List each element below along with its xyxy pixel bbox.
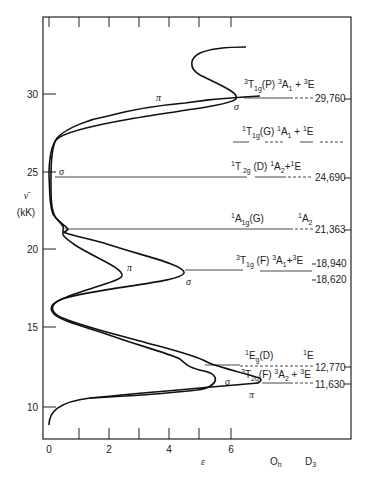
- d3-header: D3: [305, 456, 316, 468]
- label-1A2: 1A2: [298, 212, 313, 226]
- x-tick-0: 0: [46, 444, 52, 455]
- energy-24690: 24,690: [315, 172, 346, 183]
- energy-18940: 18,940: [316, 258, 347, 269]
- label-3T1g-F: 3T1g (F) 3A1+3E: [236, 254, 303, 269]
- x-tick-4: 4: [166, 444, 172, 455]
- y-tick-10: 10: [27, 402, 39, 413]
- absorption-spectrum-chart: 30 25 20 15 10 ν̄ (kK) 0 2 4 6 ε Oh D3: [0, 0, 367, 477]
- pi-label-top: π: [156, 92, 162, 103]
- state-labels: 3T1g(P) 3A1 + 3E 1T1g(G) 1A1 + 1E 1T 2g …: [231, 78, 315, 383]
- label-1T1g-G: 1T1g(G) 1A1 + 1E: [242, 125, 314, 140]
- bottom-ticks: [79, 428, 231, 439]
- y-axis-symbol: ν̄: [24, 190, 31, 201]
- label-1E: 1E: [303, 349, 314, 361]
- sigma-label-25: σ: [59, 166, 65, 177]
- y-tick-25: 25: [27, 167, 39, 178]
- energy-18620: 18,620: [316, 274, 347, 285]
- y-tick-20: 20: [27, 244, 39, 255]
- sigma-label-19: σ: [186, 276, 192, 287]
- sigma-label-top: σ: [234, 101, 240, 112]
- energy-21363: 21,363: [315, 224, 346, 235]
- y-axis-unit: (kK): [17, 207, 35, 218]
- energy-29760: 29,760: [315, 93, 346, 104]
- x-axis-symbol: ε: [201, 456, 205, 467]
- energy-12770: 12,770: [315, 362, 346, 373]
- y-tick-30: 30: [27, 89, 39, 100]
- x-tick-6: 6: [228, 444, 234, 455]
- left-ticks: [43, 94, 56, 407]
- pi-label-11: π: [249, 389, 255, 400]
- top-ticks: [49, 17, 231, 27]
- y-tick-15: 15: [27, 322, 39, 333]
- label-1A1g-G: 1A1g(G): [231, 212, 264, 227]
- pi-label-19: π: [127, 262, 133, 273]
- label-1T2g-D: 1T 2g (D) 1A2+1E: [231, 160, 301, 175]
- right-ticks: [344, 99, 351, 384]
- energy-level-lines: [55, 98, 344, 383]
- energy-11630: 11,630: [315, 379, 345, 390]
- x-tick-2: 2: [106, 444, 112, 455]
- label-1Eg-D: 1Eg(D): [245, 349, 273, 364]
- label-3T1g-P: 3T1g(P) 3A1 + 3E: [244, 78, 315, 93]
- oh-header: Oh: [270, 456, 282, 468]
